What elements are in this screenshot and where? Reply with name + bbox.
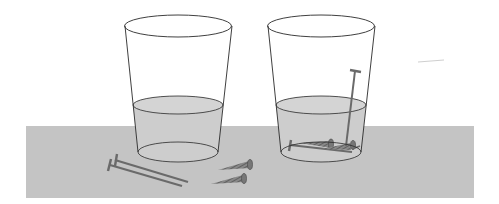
right-glass	[268, 15, 376, 162]
illustration	[0, 0, 499, 204]
left-glass	[125, 15, 233, 162]
